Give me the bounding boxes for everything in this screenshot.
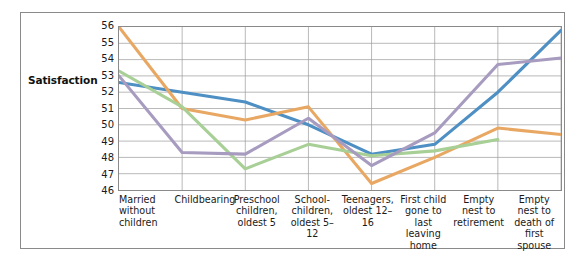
x-tick-label: School-children, oldest 5–12 — [285, 194, 341, 240]
y-tick-label: 46 — [86, 186, 114, 196]
y-tick-label: 53 — [86, 71, 114, 81]
y-tick-label: 49 — [86, 137, 114, 147]
x-tick-label: First child gone to last leaving home — [396, 194, 452, 251]
y-tick-label: 52 — [86, 87, 114, 97]
x-tick-label: Teenagers, oldest 12–16 — [340, 194, 396, 228]
data-series-lines — [119, 27, 561, 190]
y-tick-label: 51 — [86, 104, 114, 114]
x-axis-tick-labels: Married without childrenChildbearingPres… — [118, 194, 562, 256]
y-tick-label: 54 — [86, 54, 114, 64]
plot-area — [118, 26, 562, 191]
y-axis-tick-labels: 5655545352515049484746 — [86, 26, 114, 191]
x-tick-label: Empty nest to retirement — [451, 194, 507, 228]
x-tick-label: Married without children — [118, 194, 174, 228]
x-tick-label: Childbearing — [174, 194, 230, 205]
chart-figure: Satisfaction 5655545352515049484746 Marr… — [0, 0, 581, 261]
y-tick-label: 55 — [86, 38, 114, 48]
y-tick-label: 50 — [86, 120, 114, 130]
x-tick-label: Empty nest to death of first spouse — [507, 194, 563, 251]
y-tick-label: 48 — [86, 153, 114, 163]
x-tick-label: Preschool children, oldest 5 — [229, 194, 285, 228]
y-tick-label: 47 — [86, 170, 114, 180]
y-tick-label: 56 — [86, 21, 114, 31]
line-series-orange — [119, 27, 561, 183]
line-series-blue — [119, 30, 561, 154]
